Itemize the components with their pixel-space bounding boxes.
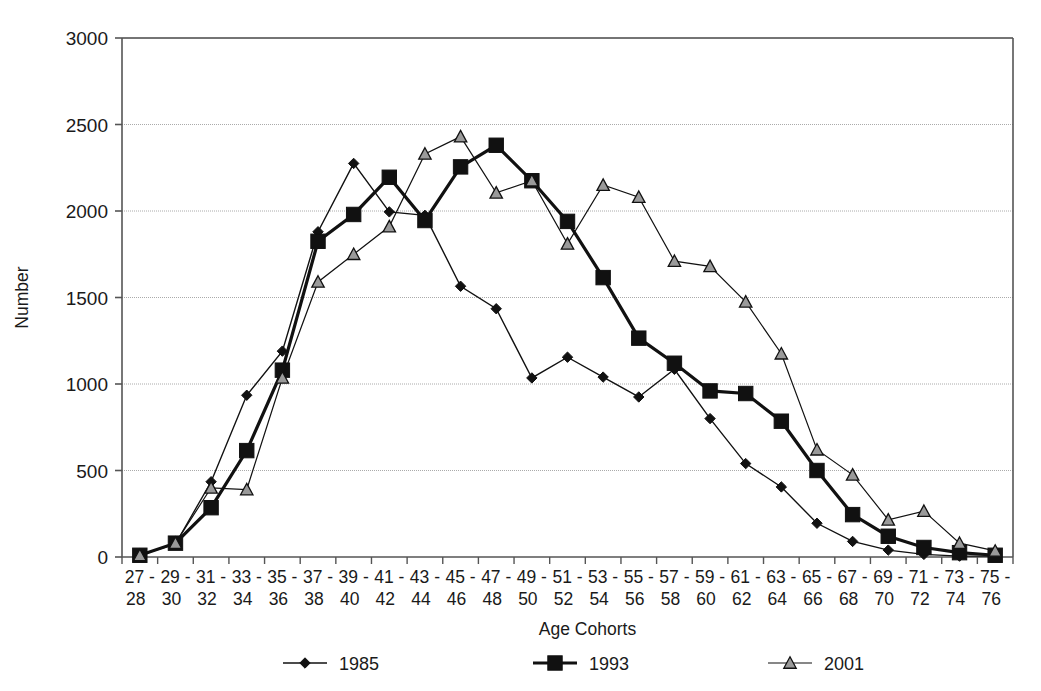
x-tick-label-bottom: 60 <box>696 589 716 609</box>
x-tick-label-top: 51 - <box>552 567 582 587</box>
x-tick-label-bottom: 76 <box>981 589 1000 609</box>
x-tick-label-top: 31 - <box>196 567 226 587</box>
y-tick-label: 1000 <box>66 374 108 395</box>
data-point-1993-33 - 34 <box>240 443 254 457</box>
x-tick-label-top: 49 - <box>517 567 547 587</box>
x-tick-label-bottom: 52 <box>554 589 573 609</box>
x-tick-label-top: 45 - <box>446 567 476 587</box>
legend-label-1993: 1993 <box>589 654 629 674</box>
data-point-1993-47 - 48 <box>489 138 503 152</box>
legend-label-1985: 1985 <box>339 654 379 674</box>
y-tick-label: 0 <box>97 547 108 568</box>
x-tick-label-top: 39 - <box>339 567 369 587</box>
x-tick-label-top: 37 - <box>303 567 333 587</box>
x-tick-label-bottom: 42 <box>376 589 395 609</box>
x-tick-label-top: 63 - <box>766 567 796 587</box>
data-point-1993-41 - 42 <box>382 170 396 184</box>
x-tick-label-top: 57 - <box>659 567 689 587</box>
data-point-1993-43 - 44 <box>418 213 432 227</box>
data-point-1993-57 - 58 <box>667 356 681 370</box>
y-axis-title: Number <box>12 266 32 328</box>
x-tick-label-top: 29 - <box>160 567 190 587</box>
x-tick-label-bottom: 50 <box>518 589 538 609</box>
x-tick-label-top: 75 - <box>980 567 1010 587</box>
y-tick-label: 1500 <box>66 288 108 309</box>
y-tick-label: 500 <box>76 461 108 482</box>
x-tick-label-bottom: 66 <box>803 589 822 609</box>
x-tick-label-bottom: 34 <box>233 589 253 609</box>
x-tick-label-bottom: 74 <box>946 589 966 609</box>
x-tick-label-bottom: 58 <box>661 589 680 609</box>
x-tick-label-top: 55 - <box>624 567 654 587</box>
x-tick-label-top: 61 - <box>731 567 761 587</box>
x-tick-label-bottom: 56 <box>625 589 644 609</box>
data-point-1993-71 - 72 <box>917 540 931 554</box>
x-tick-label-top: 59 - <box>695 567 725 587</box>
data-point-1993-69 - 70 <box>881 529 895 543</box>
x-tick-label-bottom: 62 <box>732 589 751 609</box>
legend-marker-square-icon <box>548 656 562 670</box>
chart-background <box>0 0 1041 691</box>
x-tick-label-bottom: 44 <box>411 589 431 609</box>
x-tick-label-bottom: 48 <box>482 589 501 609</box>
x-tick-label-bottom: 64 <box>768 589 788 609</box>
data-point-1993-61 - 62 <box>739 386 753 400</box>
x-tick-label-top: 43 - <box>410 567 440 587</box>
data-point-1993-55 - 56 <box>632 331 646 345</box>
data-point-1993-53 - 54 <box>596 270 610 284</box>
x-tick-label-bottom: 28 <box>126 589 145 609</box>
x-tick-label-bottom: 40 <box>340 589 360 609</box>
x-tick-label-bottom: 68 <box>839 589 858 609</box>
y-tick-label: 2500 <box>66 115 108 136</box>
x-tick-label-bottom: 46 <box>447 589 466 609</box>
x-tick-label-top: 27 - <box>125 567 155 587</box>
x-tick-label-bottom: 54 <box>589 589 609 609</box>
x-tick-label-top: 73 - <box>944 567 974 587</box>
data-point-1993-65 - 66 <box>810 463 824 477</box>
x-tick-label-top: 69 - <box>873 567 903 587</box>
x-tick-label-top: 67 - <box>838 567 868 587</box>
x-tick-label-top: 41 - <box>374 567 404 587</box>
data-point-1993-59 - 60 <box>703 384 717 398</box>
line-chart: 050010001500200025003000 27 -2829 -3031 … <box>0 0 1041 691</box>
x-tick-label-top: 35 - <box>267 567 297 587</box>
data-point-1993-39 - 40 <box>346 207 360 221</box>
x-tick-label-bottom: 32 <box>197 589 216 609</box>
data-point-1993-63 - 64 <box>774 414 788 428</box>
x-tick-label-bottom: 38 <box>304 589 323 609</box>
x-tick-label-bottom: 36 <box>269 589 288 609</box>
x-tick-label-top: 71 - <box>909 567 939 587</box>
data-point-1993-31 - 32 <box>204 500 218 514</box>
x-tick-label-top: 47 - <box>481 567 511 587</box>
x-tick-label-top: 33 - <box>232 567 262 587</box>
data-point-1993-67 - 68 <box>845 507 859 521</box>
x-tick-label-bottom: 30 <box>162 589 182 609</box>
x-tick-label-top: 65 - <box>802 567 832 587</box>
x-axis-title: Age Cohorts <box>539 619 637 639</box>
x-tick-label-bottom: 70 <box>875 589 895 609</box>
legend-label-2001: 2001 <box>824 654 864 674</box>
y-tick-label: 3000 <box>66 28 108 49</box>
data-point-1993-45 - 46 <box>453 160 467 174</box>
data-point-1993-51 - 52 <box>560 214 574 228</box>
x-tick-label-bottom: 72 <box>910 589 929 609</box>
chart-container: 050010001500200025003000 27 -2829 -3031 … <box>0 0 1041 691</box>
x-tick-label-top: 53 - <box>588 567 618 587</box>
y-tick-label: 2000 <box>66 201 108 222</box>
data-point-1993-37 - 38 <box>311 234 325 248</box>
